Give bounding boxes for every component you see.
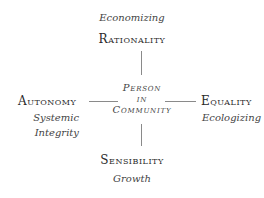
center-node: Person in Community [106, 82, 178, 115]
right-sublabel: Ecologizing [202, 112, 261, 123]
top-sublabel: Economizing [0, 12, 264, 23]
center-line-2: in [106, 93, 178, 104]
bottom-sublabel: Growth [0, 173, 264, 184]
connector-top [141, 51, 142, 75]
center-line-3: Community [106, 104, 178, 115]
left-sublabel-2: Integrity [35, 127, 79, 138]
connector-bottom [141, 124, 142, 146]
top-label: Rationality [0, 32, 264, 46]
left-sublabel-1: Systemic [33, 112, 79, 123]
center-line-1: Person [106, 82, 178, 93]
right-label: Equality [201, 94, 252, 108]
bottom-label: Sensibility [0, 153, 264, 167]
left-label: Autonomy [18, 94, 76, 108]
